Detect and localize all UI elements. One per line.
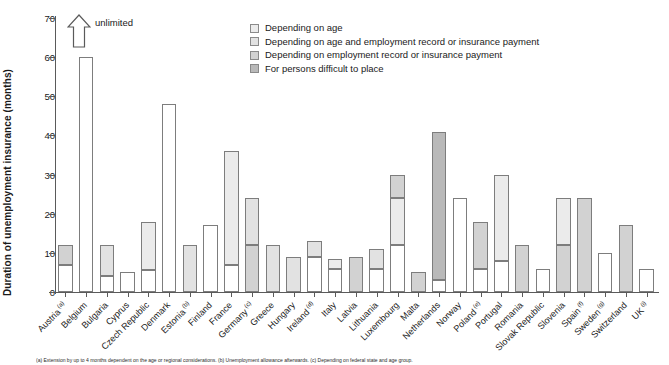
footnote-marker: (g) <box>595 300 606 311</box>
bar-segment <box>162 104 177 292</box>
bar-segment <box>245 198 260 245</box>
x-axis-tick-mark <box>418 292 419 297</box>
bar-segment <box>203 225 218 292</box>
y-axis-tick-mark <box>49 214 55 215</box>
x-axis-tick-mark <box>273 292 274 297</box>
bar-segment <box>183 245 198 292</box>
bar-spain <box>577 18 592 292</box>
legend-swatch-icon <box>250 51 259 60</box>
x-axis-tick-mark <box>564 292 565 297</box>
bar-segment <box>432 280 447 292</box>
x-axis-tick-mark <box>377 292 378 297</box>
bar-segment <box>224 151 239 265</box>
y-axis-tick-mark <box>49 292 55 293</box>
y-axis-tick-mark <box>49 18 55 19</box>
bar-segment <box>369 249 384 269</box>
bar-segment <box>432 132 447 281</box>
bar-france <box>224 18 239 292</box>
legend-item-label: Depending on age <box>265 23 343 33</box>
bar-segment <box>141 270 156 292</box>
x-axis-tick-mark <box>522 292 523 297</box>
y-axis-tick-mark <box>49 175 55 176</box>
x-axis-tick-mark <box>501 292 502 297</box>
x-axis-tick-mark <box>460 292 461 297</box>
bar-segment <box>245 245 260 292</box>
bar-segment <box>100 245 115 276</box>
bar-segment <box>120 272 135 292</box>
bar-segment <box>266 245 281 292</box>
bar-segment <box>556 198 571 245</box>
bar-segment <box>494 175 509 261</box>
bar-segment <box>390 198 405 245</box>
bar-segment <box>411 272 426 292</box>
x-axis-tick-mark <box>294 292 295 297</box>
x-axis-label-text: Austria <box>36 307 63 334</box>
bar-belgium <box>79 18 94 292</box>
x-axis-tick-mark <box>169 292 170 297</box>
up-arrow-icon <box>67 14 91 48</box>
legend-item: Depending on age and employment record o… <box>250 36 539 48</box>
bar-cyprus <box>120 18 135 292</box>
x-axis-tick-mark <box>86 292 87 297</box>
bar-segment <box>224 265 239 292</box>
footnote-marker: (c) <box>242 300 252 310</box>
bar-segment <box>390 245 405 292</box>
y-axis-tick-mark <box>49 96 55 97</box>
x-axis-tick-mark <box>647 292 648 297</box>
bar-segment <box>473 269 488 292</box>
x-axis-tick-mark <box>398 292 399 297</box>
bar-segment <box>619 225 634 292</box>
y-axis-tick-mark <box>49 253 55 254</box>
bar-segment <box>307 257 322 292</box>
x-axis-tick-mark <box>543 292 544 297</box>
x-axis-tick-mark <box>356 292 357 297</box>
bar-czech-republic <box>141 18 156 292</box>
bar-segment <box>349 257 364 292</box>
legend-item: Depending on age <box>250 22 539 34</box>
legend-swatch-icon <box>250 64 259 73</box>
x-axis-tick-mark <box>314 292 315 297</box>
bar-segment <box>473 222 488 269</box>
chart-root: Duration of unemployment insurance (mont… <box>0 0 669 365</box>
unlimited-label: unlimited <box>95 17 133 28</box>
bar-segment <box>286 257 301 292</box>
bar-segment <box>556 245 571 292</box>
bar-finland <box>203 18 218 292</box>
legend-swatch-icon <box>250 24 259 33</box>
bar-sweden <box>598 18 613 292</box>
bar-segment <box>328 269 343 292</box>
x-axis-line <box>55 292 659 293</box>
footnote-marker: (d) <box>304 300 315 311</box>
bar-bulgaria <box>100 18 115 292</box>
x-axis-tick-mark <box>128 292 129 297</box>
y-axis-tick-mark <box>49 135 55 136</box>
bar-segment <box>369 269 384 292</box>
bar-segment <box>515 245 530 292</box>
x-axis-tick-mark <box>439 292 440 297</box>
x-axis-tick-mark <box>148 292 149 297</box>
x-axis-tick-mark <box>481 292 482 297</box>
bar-segment <box>79 57 94 292</box>
x-axis-tick-mark <box>335 292 336 297</box>
legend-item: For persons difficult to place <box>250 63 539 75</box>
bar-segment <box>328 259 343 269</box>
bar-estonia <box>183 18 198 292</box>
bar-segment <box>598 253 613 292</box>
bar-segment <box>536 269 551 292</box>
x-axis-tick-mark <box>605 292 606 297</box>
bar-slovenia <box>556 18 571 292</box>
y-axis-tick-mark <box>49 57 55 58</box>
bar-segment <box>141 222 156 271</box>
x-axis-tick-mark <box>107 292 108 297</box>
bar-segment <box>307 241 322 257</box>
x-axis-tick-mark <box>211 292 212 297</box>
bar-uk <box>639 18 654 292</box>
bar-denmark <box>162 18 177 292</box>
bar-segment <box>577 198 592 292</box>
legend-item-label: For persons difficult to place <box>265 64 384 74</box>
bar-segment <box>390 175 405 198</box>
footnote-text: (a) Extension by up to 4 months dependen… <box>36 357 666 364</box>
bar-segment <box>100 276 115 292</box>
x-axis-tick-mark <box>626 292 627 297</box>
x-axis-label-uk: UK (i) <box>629 300 651 322</box>
